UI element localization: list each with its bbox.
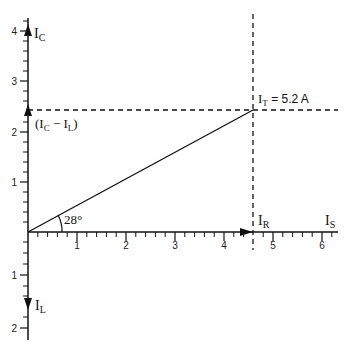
ic-label: IC	[34, 26, 46, 43]
y-tick-label: 1	[11, 177, 17, 188]
y-major-ticks	[20, 31, 28, 328]
x-tick-label: 3	[172, 240, 178, 251]
ir-arrow-icon	[240, 228, 253, 236]
x-tick-label: 2	[123, 240, 129, 251]
y-tick-label: 4	[11, 26, 17, 37]
il-arrow-icon	[24, 298, 32, 310]
ic-arrow-icon	[24, 24, 32, 36]
diagram-canvas: 1 2 3 4 5 6 1 2 3 4 1 2 28° I	[0, 0, 347, 354]
y-tick-label: 3	[11, 76, 17, 87]
phasor-diagram: 1 2 3 4 5 6 1 2 3 4 1 2 28° I	[0, 0, 347, 354]
angle-label: 28°	[64, 212, 82, 227]
y-tick-label: 2	[11, 323, 17, 334]
x-tick-label: 4	[221, 240, 227, 251]
il-label: IL	[35, 298, 46, 315]
x-tick-label: 5	[270, 240, 276, 251]
is-axis-label: IS	[325, 213, 335, 230]
x-tick-label: 1	[74, 240, 80, 251]
x-major-ticks	[77, 232, 322, 241]
y-tick-label: 2	[11, 127, 17, 138]
it-label: IT = 5.2 A	[258, 91, 309, 108]
y-tick-label: 1	[11, 270, 17, 281]
angle-arc	[58, 215, 62, 232]
ic-minus-il-label: (IC − IL)	[35, 116, 78, 133]
ir-label: IR	[258, 213, 270, 230]
x-tick-label: 6	[319, 240, 325, 251]
